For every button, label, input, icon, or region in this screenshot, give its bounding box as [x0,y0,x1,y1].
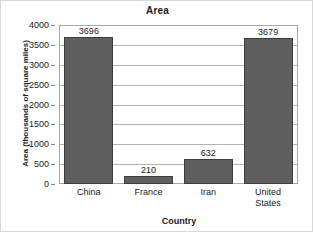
y-tick-mark [51,184,55,185]
x-tick-label: France [119,187,179,198]
y-tick-label: 1000 [29,139,49,149]
y-tick-label: 500 [34,159,49,169]
bar-value-label: 3679 [238,27,298,37]
y-tick-mark [51,164,55,165]
y-tick-mark [51,85,55,86]
y-tick-label: 4000 [29,20,49,30]
x-tick-label-line: States [238,198,298,209]
y-tick-mark [51,65,55,66]
x-tick-label: China [59,187,119,198]
y-tick-label: 3000 [29,60,49,70]
bar-value-label: 632 [179,148,239,158]
x-tick-label: Iran [179,187,239,198]
bar-slot: 3679 [238,25,298,184]
y-tick-mark [51,105,55,106]
y-tick-label: 0 [44,179,49,189]
bar-united-states[interactable] [244,38,293,184]
x-tick-label: UnitedStates [238,187,298,209]
x-axis-tick-labels: ChinaFranceIranUnitedStates [59,187,298,217]
y-tick-label: 2500 [29,80,49,90]
bar-iran[interactable] [184,159,233,184]
x-axis-title: Country [59,216,299,226]
x-tick-label-line: United [238,187,298,198]
bar-china[interactable] [64,37,113,184]
y-axis-tick-labels: 05001000150020002500300035004000 [1,25,55,184]
y-tick-label: 2000 [29,100,49,110]
y-tick-mark [51,25,55,26]
y-tick-mark [51,144,55,145]
bar-slot: 632 [179,25,239,184]
x-tick-label-line: France [119,187,179,198]
y-tick-mark [51,45,55,46]
y-tick-label: 1500 [29,119,49,129]
y-tick-label: 3500 [29,40,49,50]
chart-title: Area [1,5,313,16]
bar-slot: 3696 [59,25,119,184]
bar-france[interactable] [124,176,173,184]
bar-slot: 210 [119,25,179,184]
bars-layer: 36962106323679 [59,25,298,184]
bar-chart-figure: Area Area (thousands of square miles) 05… [0,0,313,232]
x-tick-label-line: Iran [179,187,239,198]
y-tick-mark [51,124,55,125]
bar-value-label: 3696 [59,26,119,36]
bar-value-label: 210 [119,165,179,175]
x-tick-label-line: China [59,187,119,198]
